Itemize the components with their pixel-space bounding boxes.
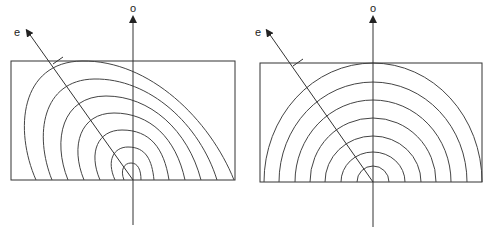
right-e-axis: [268, 32, 373, 182]
left-o-label: o: [130, 2, 136, 14]
right-e-label: e: [255, 26, 261, 38]
left-e-label: e: [14, 26, 20, 38]
right-panel: o e: [255, 2, 482, 227]
right-o-label: o: [370, 2, 376, 14]
diagram-canvas: o e o e: [0, 0, 491, 235]
left-e-axis: [28, 32, 133, 180]
left-panel: o e: [11, 2, 235, 225]
left-contours: [24, 61, 234, 180]
